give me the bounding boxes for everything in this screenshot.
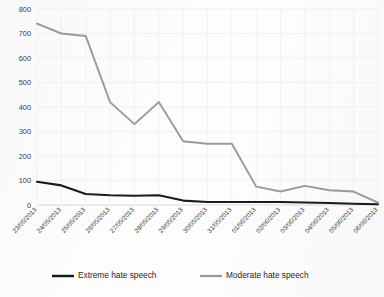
line-chart: 0100200300400500600700800 23/05/201324/0…: [0, 0, 384, 297]
x-axis-tick-label: 01/06/2013: [230, 206, 257, 234]
x-axis-tick-label: 30/05/2013: [181, 206, 208, 234]
x-axis-tick-label: 04/06/2013: [303, 206, 330, 234]
x-axis-tick-label: 26/05/2013: [84, 206, 111, 234]
y-axis-tick-label: 600: [19, 54, 31, 63]
chart-canvas: 0100200300400500600700800 23/05/201324/0…: [0, 0, 384, 297]
y-axis-tick-label: 100: [19, 176, 31, 185]
y-axis-tick-label: 800: [19, 5, 31, 14]
y-axis-tick-label: 300: [19, 127, 31, 136]
x-axis-tick-label: 29/05/2013: [157, 206, 184, 234]
y-axis-tick-label: 500: [19, 78, 31, 87]
legend-label: Moderate hate speech: [226, 270, 309, 280]
x-axis-tick-label: 24/05/2013: [35, 206, 62, 234]
chart-legend: Extreme hate speechModerate hate speech: [52, 270, 309, 280]
y-axis-tick-label: 700: [19, 29, 31, 38]
x-axis-tick-label: 28/05/2013: [133, 206, 160, 234]
x-axis-tick-label: 31/05/2013: [206, 206, 233, 234]
x-axis-tick-label: 06/06/2013: [352, 206, 379, 234]
x-axis-tick-label: 03/06/2013: [279, 206, 306, 234]
x-axis-tick-label: 25/05/2013: [60, 206, 87, 234]
x-axis-tick-label: 05/06/2013: [327, 206, 354, 234]
y-axis-tick-label: 400: [19, 103, 31, 112]
x-axis-tick-labels: 23/05/201324/05/201325/05/201326/05/2013…: [11, 206, 379, 234]
y-axis-tick-labels: 0100200300400500600700800: [19, 5, 31, 210]
legend-label: Extreme hate speech: [78, 270, 157, 280]
y-axis-tick-label: 200: [19, 152, 31, 161]
x-axis-tick-label: 23/05/2013: [11, 206, 38, 234]
x-axis-tick-label: 02/06/2013: [254, 206, 281, 234]
x-axis-tick-label: 27/05/2013: [108, 206, 135, 234]
